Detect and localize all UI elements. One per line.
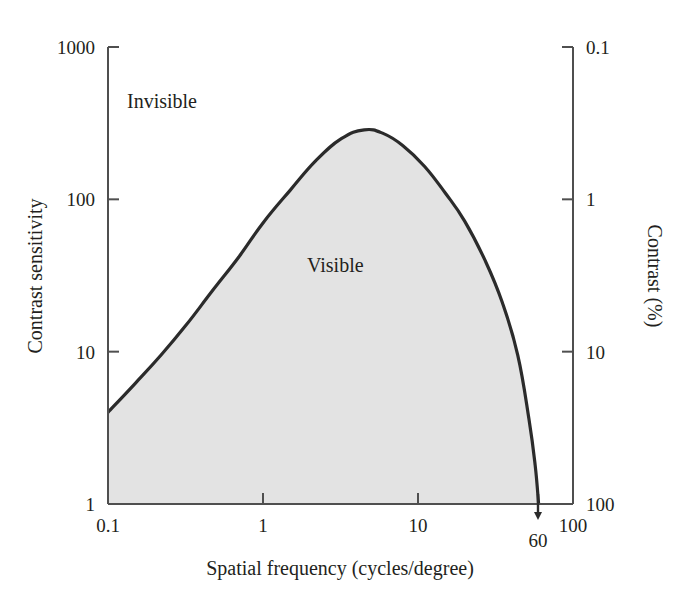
y-tick-label-1: 1 <box>86 494 96 515</box>
chart-figure: 11010010000.11101000.1110100 60 Invisibl… <box>0 0 688 600</box>
cutoff-frequency-label: 60 <box>529 530 548 551</box>
y-tick-label-1000: 1000 <box>57 37 95 58</box>
cutoff-arrow-head <box>534 512 542 520</box>
x-tick-label-1: 1 <box>258 515 268 536</box>
x-tick-label-10: 10 <box>409 515 428 536</box>
x-tick-label-100: 100 <box>559 515 588 536</box>
invisible-region-label: Invisible <box>127 90 197 112</box>
contrast-sensitivity-chart: 11010010000.11101000.1110100 60 Invisibl… <box>0 0 688 600</box>
y-axis-title: Contrast sensitivity <box>24 199 47 354</box>
x-tick-label-0.1: 0.1 <box>96 515 120 536</box>
x-axis-title: Spatial frequency (cycles/degree) <box>206 557 474 580</box>
visible-region-label: Visible <box>307 254 364 276</box>
y2-tick-label-1: 1 <box>586 189 596 210</box>
y-tick-label-10: 10 <box>76 342 95 363</box>
y2-tick-label-10: 10 <box>586 342 605 363</box>
y2-tick-label-0.1: 0.1 <box>586 37 610 58</box>
y-tick-label-100: 100 <box>67 189 96 210</box>
y2-tick-label-100: 100 <box>586 494 615 515</box>
y2-axis-title: Contrast (%) <box>643 225 666 328</box>
